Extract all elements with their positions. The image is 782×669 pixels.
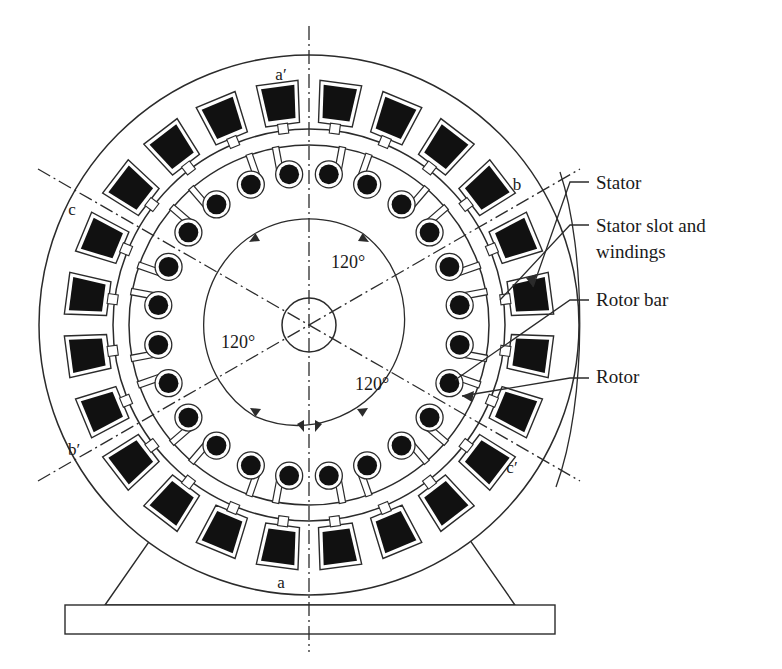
rotor-bar-conductor [420,408,440,428]
stator-slot-neck [329,516,340,527]
rotor-bar-conductor [357,456,377,476]
rotor-bar-conductor [319,466,339,486]
rotor-bar-conductor [440,373,460,393]
rotor-bar-conductor [279,164,299,184]
callout-label-group: Stator Stator slot and windings Rotor ba… [596,172,706,387]
axis-label-b: b [513,175,522,194]
rotor-bar-conductor [450,295,470,315]
rotor-bar-conductor [440,257,460,277]
callout-label-stator: Stator [596,172,642,193]
induction-motor-cross-section-figure: a′ b c′ a b′ c 120° 120° 120° Stator Sta… [0,0,782,669]
callout-label-stator-slot-line2: windings [596,241,666,262]
callout-label-rotor-bar: Rotor bar [596,289,669,310]
rotor-bar-conductor [159,257,179,277]
rotor-bar-conductor [450,335,470,355]
rotor-bar-conductor [179,408,199,428]
rotor-bar-conductor [392,195,412,215]
axis-label-c-prime: c′ [506,458,517,477]
angle-label-bottom: 120° [355,374,389,394]
rotor-bar-conductor [148,335,168,355]
callout-label-rotor: Rotor [596,366,640,387]
rotor-bar-conductor [319,164,339,184]
rotor-bar-conductor [279,466,299,486]
rotor-bar-conductor [159,373,179,393]
stator-slot-neck [278,123,289,134]
angle-label-top: 120° [331,252,365,272]
stator-slot-neck [107,294,118,305]
axis-label-a: a [277,573,285,592]
rotor-bar-conductor [357,175,377,195]
rotor-bar-conductor [179,223,199,243]
angle-label-left: 120° [221,332,255,352]
axis-label-b-prime: b′ [68,440,80,459]
rotor-bar-conductor [420,223,440,243]
callout-label-stator-slot: Stator slot and [596,215,706,236]
rotor-bar-conductor [207,436,227,456]
axis-label-c: c [68,200,76,219]
rotor-bar-conductor [241,175,261,195]
axis-label-a-prime: a′ [275,65,286,84]
stator-slot-neck [329,123,340,134]
base-foot-plate [65,605,555,634]
rotor-bar-conductor [207,195,227,215]
rotor-bar-conductor [148,295,168,315]
motor-diagram-svg: a′ b c′ a b′ c 120° 120° 120° Stator Sta… [0,0,782,669]
stator-slot-neck [107,345,118,356]
rotor-bar-conductor [392,436,412,456]
stator-slot-neck [278,516,289,527]
rotor-bar-conductor [241,456,261,476]
stator-slot-neck [500,345,511,356]
